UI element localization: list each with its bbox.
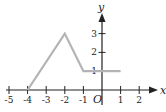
chart: xy-5-4-3-2-112123O — [0, 0, 166, 112]
y-axis-arrow-icon — [99, 13, 106, 22]
y-tick-label: 2 — [91, 47, 97, 57]
x-tick-label: -5 — [5, 95, 14, 105]
x-axis-arrow-icon — [149, 87, 158, 94]
y-axis-label: y — [97, 1, 105, 14]
x-tick-label: -3 — [42, 95, 51, 105]
x-tick-label: -2 — [60, 95, 69, 105]
y-tick-label: 3 — [91, 29, 97, 39]
x-tick-label: -4 — [23, 95, 32, 105]
x-tick-label: 2 — [136, 95, 142, 105]
x-axis-label: x — [160, 84, 166, 97]
x-tick-label: -1 — [79, 95, 88, 105]
graph-line — [28, 34, 121, 90]
x-tick-label: 1 — [118, 95, 124, 105]
origin-label: O — [93, 93, 102, 106]
